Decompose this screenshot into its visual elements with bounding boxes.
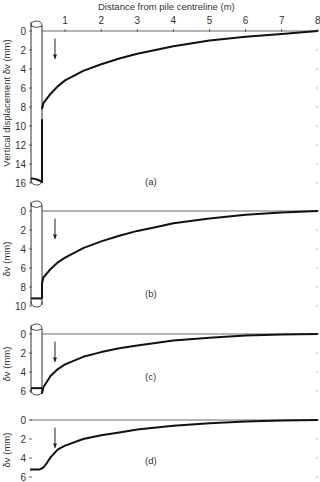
y-tick-label: 8 [20,282,26,293]
x-tick-label: 4 [171,15,177,26]
y-tick-label: 0 [20,206,26,217]
panel-label: (b) [145,288,157,299]
y-tick-label: 10 [15,301,27,312]
y-tick-label: 14 [15,159,27,170]
x-tick-label: 1 [62,15,68,26]
y-axis-title: δv (mm) [1,347,12,382]
pile-top-icon [31,21,42,28]
x-tick-label: 5 [207,15,213,26]
x-tick-label: 3 [135,15,141,26]
panel-a: 0246810121416(a)Vertical displacement δv… [1,21,319,189]
y-tick-label: 8 [20,102,26,113]
y-tick-label: 6 [20,472,26,482]
panel-b: 0246810(b)δv (mm) [1,201,319,312]
y-tick-label: 0 [20,329,26,340]
y-axis-title: δv (mm) [1,242,12,277]
displacement-curve [42,334,318,393]
y-tick-label: 2 [20,225,26,236]
panel-label: (d) [145,455,157,466]
y-tick-label: 0 [20,26,26,37]
y-tick-label: 4 [20,64,26,75]
panel-label: (c) [145,371,156,382]
displacement-curve [30,420,318,469]
x-tick-label: 6 [243,15,249,26]
y-tick-label: 2 [20,348,26,359]
y-tick-label: 4 [20,244,26,255]
y-tick-label: 2 [20,434,26,445]
x-tick-label: 2 [98,15,104,26]
y-tick-label: 2 [20,45,26,56]
panel-d: 0246(d)δv (mm) [1,415,319,482]
y-tick-label: 6 [20,263,26,274]
y-tick-label: 12 [15,140,27,151]
y-axis-title: Vertical displacement δv (mm) [1,39,12,166]
y-axis-title: δv (mm) [1,433,12,468]
pile-top-icon [31,201,42,208]
y-tick-label: 0 [20,415,26,426]
panel-label: (a) [145,176,157,187]
y-tick-label: 10 [15,121,27,132]
x-axis-title: Distance from pile centreline (m) [98,1,235,12]
panel-c: 0246(c)δv (mm) [1,324,319,397]
pile-top-icon [31,324,42,331]
figure: 0246810121416(a)Vertical displacement δv… [0,0,320,482]
y-tick-label: 4 [20,367,26,378]
displacement-curve [42,211,318,298]
y-tick-label: 6 [20,386,26,397]
x-tick-label: 7 [279,15,285,26]
y-tick-label: 16 [15,178,27,189]
displacement-curve [42,31,318,109]
y-tick-label: 4 [20,453,26,464]
x-tick-label: 8 [315,15,320,26]
y-tick-label: 6 [20,83,26,94]
